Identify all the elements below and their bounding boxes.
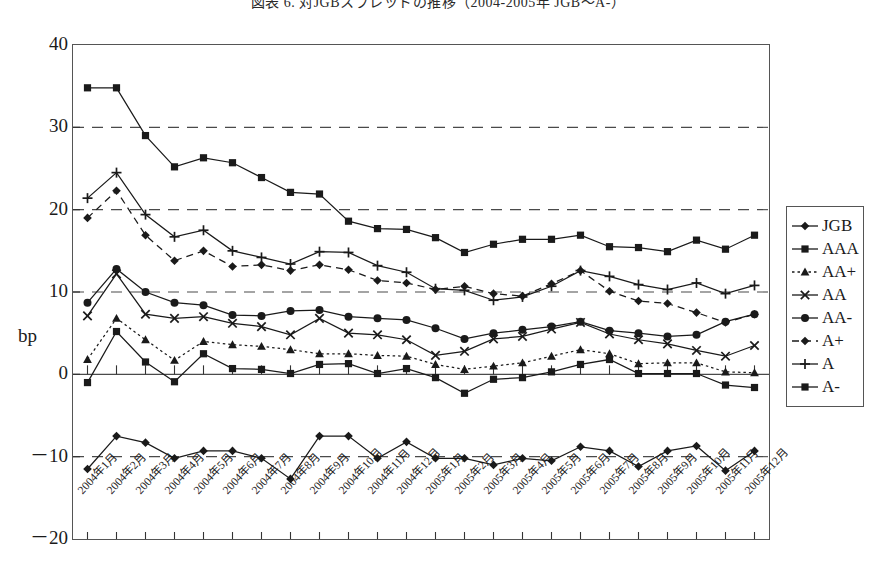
marker-square (432, 234, 439, 241)
marker-square (664, 370, 671, 377)
marker-triangle (170, 356, 179, 364)
marker-plus (547, 281, 557, 291)
marker-triangle (257, 342, 266, 350)
marker-plus (489, 295, 499, 305)
marker-square (171, 378, 178, 385)
marker-triangle (750, 368, 759, 376)
marker-diamond (344, 265, 353, 274)
marker-circle (432, 324, 440, 332)
marker-square (606, 243, 613, 250)
marker-triangle (576, 345, 585, 353)
marker-circle (635, 329, 643, 337)
marker-circle (374, 314, 382, 322)
marker-diamond (634, 462, 643, 471)
legend-label: A+ (819, 332, 844, 349)
marker-square (693, 370, 700, 377)
marker-circle (258, 312, 266, 320)
series-line-AA- (88, 269, 755, 339)
marker-square (490, 241, 497, 248)
y-tick-label-20: 20 (6, 199, 68, 218)
marker-triangle (112, 314, 121, 322)
marker-circle (548, 323, 556, 331)
legend-label: AA+ (819, 263, 856, 280)
marker-square (461, 249, 468, 256)
marker-square (258, 366, 265, 373)
legend-item-A+[interactable]: A+ (791, 329, 859, 352)
series-A+ (83, 186, 759, 326)
marker-plus (721, 289, 731, 299)
legend-label: JGB (819, 217, 852, 234)
legend-item-AA[interactable]: AA (791, 283, 859, 306)
marker-square (345, 360, 352, 367)
marker-square (200, 154, 207, 161)
marker-triangle (141, 335, 150, 343)
marker-square (229, 365, 236, 372)
legend-label: AA (819, 286, 847, 303)
marker-diamond (228, 262, 237, 271)
series-line-A (88, 173, 755, 301)
marker-square (84, 379, 91, 386)
marker-square (229, 159, 236, 166)
series-line-A+ (88, 191, 755, 323)
marker-plus (605, 271, 615, 281)
y-tick-label--10: －10 (6, 446, 68, 465)
marker-square (548, 236, 555, 243)
legend-item-JGB[interactable]: JGB (791, 214, 859, 237)
marker-triangle (692, 358, 701, 366)
marker-circle (664, 332, 672, 340)
chart-legend: JGBAAAAA+AAAA-A+AA- (786, 206, 864, 407)
marker-diamond (431, 454, 440, 463)
legend-item-AA+[interactable]: AA+ (791, 260, 859, 283)
y-tick-label-40: 40 (6, 34, 68, 53)
marker-diamond (315, 432, 324, 441)
marker-plus (344, 247, 354, 257)
marker-diamond (547, 456, 556, 465)
marker-plus (576, 266, 586, 276)
legend-label: AA- (819, 309, 852, 326)
marker-diamond (170, 454, 179, 463)
marker-diamond (228, 447, 237, 456)
marker-square (403, 365, 410, 372)
marker-square (635, 370, 642, 377)
series-AA (83, 270, 758, 361)
marker-circle (801, 314, 809, 322)
marker-plus (315, 247, 325, 257)
marker-cross (286, 331, 294, 339)
marker-plus (141, 210, 151, 220)
legend-item-AAA[interactable]: AAA (791, 237, 859, 260)
marker-triangle (801, 267, 810, 275)
marker-square (664, 248, 671, 255)
marker-plus (663, 285, 673, 295)
marker-triangle (547, 352, 556, 360)
legend-item-AA-[interactable]: AA- (791, 306, 859, 329)
marker-diamond (801, 221, 810, 230)
series-line-JGB (88, 436, 755, 479)
legend-marker-square-icon (791, 241, 819, 257)
legend-item-A-[interactable]: A- (791, 375, 859, 398)
marker-circle (490, 329, 498, 337)
marker-diamond (692, 308, 701, 317)
marker-square (548, 368, 555, 375)
marker-diamond (801, 336, 810, 345)
marker-plus (692, 278, 702, 288)
legend-label: A- (819, 378, 840, 395)
marker-square (171, 163, 178, 170)
marker-square (403, 226, 410, 233)
marker-circle (345, 313, 353, 321)
marker-triangle (373, 351, 382, 359)
marker-plus (228, 246, 238, 256)
series-A (83, 168, 760, 306)
marker-square (577, 361, 584, 368)
marker-triangle (460, 365, 469, 373)
marker-diamond (402, 438, 411, 447)
legend-item-A[interactable]: A (791, 352, 859, 375)
marker-diamond (634, 297, 643, 306)
marker-square (113, 84, 120, 91)
marker-triangle (402, 352, 411, 360)
marker-diamond (750, 447, 759, 456)
series-JGB (83, 432, 759, 483)
marker-diamond (315, 261, 324, 270)
y-tick-label--20: －20 (6, 528, 68, 547)
marker-square (432, 374, 439, 381)
marker-square (142, 132, 149, 139)
